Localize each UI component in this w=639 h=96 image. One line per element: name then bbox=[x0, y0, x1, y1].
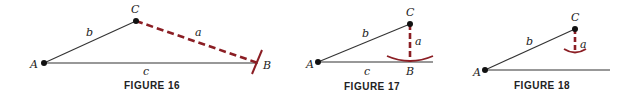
label-c-vertex: C bbox=[571, 11, 580, 24]
label-a-vertex: A bbox=[29, 58, 38, 71]
label-c-vertex: C bbox=[131, 3, 140, 16]
label-a-vertex: A bbox=[305, 58, 314, 71]
label-side-b: b bbox=[362, 27, 369, 40]
label-b-vertex: B bbox=[262, 59, 271, 72]
figure-17: A C B a b c FIGURE 17 bbox=[305, 6, 433, 92]
point-c bbox=[572, 26, 578, 32]
point-a bbox=[41, 60, 47, 66]
label-a-vertex: A bbox=[472, 66, 481, 79]
figure-16: A C B a b c FIGURE 16 bbox=[29, 3, 271, 91]
label-side-c: c bbox=[364, 65, 370, 78]
point-a bbox=[482, 67, 488, 73]
label-side-a: a bbox=[195, 26, 202, 39]
figures-canvas: A C B a b c FIGURE 16 A C B a b c FIGURE… bbox=[0, 0, 639, 96]
label-side-b: b bbox=[86, 26, 93, 39]
figure-caption: FIGURE 17 bbox=[344, 81, 400, 92]
figure-caption: FIGURE 16 bbox=[124, 80, 180, 91]
label-b-vertex: B bbox=[405, 65, 414, 78]
label-side-a: a bbox=[415, 35, 422, 48]
label-c-vertex: C bbox=[406, 6, 415, 19]
label-side-c: c bbox=[143, 65, 149, 78]
figure-18: A C a b FIGURE 18 bbox=[472, 11, 610, 91]
label-side-b: b bbox=[526, 35, 533, 48]
point-a bbox=[315, 59, 321, 65]
point-c bbox=[407, 21, 413, 27]
figure-caption: FIGURE 18 bbox=[514, 80, 570, 91]
label-side-a: a bbox=[580, 38, 587, 51]
point-c bbox=[133, 18, 139, 24]
